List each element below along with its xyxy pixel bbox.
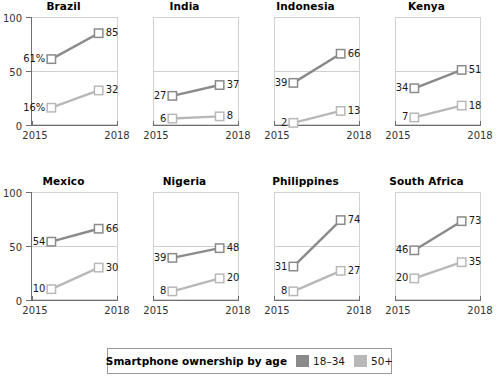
value-label-2015: 7 [368,112,408,122]
panel-title: Philippines [248,175,363,187]
series-line-50-plus [172,278,219,291]
x-axis-label-2015: 2015 [260,130,294,141]
data-point-marker [336,216,344,224]
x-axis-line [153,125,239,126]
panel-indonesia: Indonesia201520183966213 [248,0,363,165]
x-axis-label-2018: 2018 [463,305,497,316]
x-axis-label-2015: 2015 [18,305,52,316]
legend-swatch-18-34 [296,355,309,367]
x-axis-label-2015: 2015 [260,305,294,316]
data-point-marker [168,92,176,100]
data-point-marker [47,55,55,63]
panel-title: Mexico [6,175,121,187]
data-point-marker [47,237,55,245]
data-point-marker [94,86,102,94]
value-label-2015: 10 [5,284,45,294]
panel-kenya: Kenya201520183451718 [369,0,484,165]
y-axis-tick [26,300,32,301]
legend-swatch-50-plus [354,355,367,367]
value-label-2015: 16% [5,103,45,113]
data-point-marker [94,29,102,37]
series-line-18-34 [51,33,98,59]
value-label-2015: 8 [126,286,166,296]
panel-title: Kenya [369,0,484,12]
data-point-marker [289,119,297,127]
x-axis-label-2015: 2015 [381,305,415,316]
value-label-2015: 39 [247,78,287,88]
value-label-2015: 34 [368,83,408,93]
data-point-marker [336,50,344,58]
panel-india: India20152018273768 [127,0,242,165]
panel-title: Indonesia [248,0,363,12]
data-point-marker [457,66,465,74]
data-point-marker [215,244,223,252]
data-point-marker [410,274,418,282]
series-line-50-plus [51,90,98,107]
series-line-50-plus [293,111,340,123]
data-point-marker [168,114,176,122]
value-label-2018: 73 [469,216,497,226]
x-axis-label-2015: 2015 [18,130,52,141]
panel-mexico: Mexico0501002015201854661030 [6,175,121,340]
legend-title: Smartphone ownership by age [106,355,287,367]
value-label-2015: 46 [368,245,408,255]
x-axis-label-2015: 2015 [139,305,173,316]
x-axis-label-2015: 2015 [381,130,415,141]
data-point-marker [410,113,418,121]
data-point-marker [168,254,176,262]
x-axis-line [395,125,481,126]
value-label-2018: 51 [469,65,497,75]
series-line-18-34 [414,221,461,250]
value-label-2015: 27 [126,91,166,101]
panel-title: South Africa [369,175,484,187]
data-point-marker [457,101,465,109]
series-line-18-34 [293,54,340,83]
panel-row-0: Brazil0501002015201861%8516%32India20152… [0,0,490,170]
value-label-2015: 61% [5,54,45,64]
data-point-marker [47,285,55,293]
data-point-marker [410,246,418,254]
chart-legend: Smartphone ownership by age 18–34 50+ [107,348,392,374]
series-line-50-plus [414,262,461,278]
series-line-50-plus [293,271,340,292]
x-axis-line [274,300,360,301]
panel-nigeria: Nigeria201520183948820 [127,175,242,340]
legend-label-50-plus: 50+ [371,355,393,367]
panel-row-1: Mexico0501002015201854661030Nigeria20152… [0,175,490,345]
panel-south-africa: South Africa2015201846732035 [369,175,484,340]
value-label-2015: 31 [247,262,287,272]
data-point-marker [94,263,102,271]
y-axis-label: 50 [0,67,22,78]
data-point-marker [94,225,102,233]
y-axis-tick [26,125,32,126]
data-point-marker [457,258,465,266]
x-axis-line [32,300,118,301]
series-plot [153,17,239,125]
data-point-marker [215,81,223,89]
y-axis-label: 100 [0,188,22,199]
panel-brazil: Brazil0501002015201861%8516%32 [6,0,121,165]
x-axis-label-2015: 2015 [139,130,173,141]
legend-entry-18-34: 18–34 [296,355,345,367]
series-line-50-plus [414,106,461,118]
data-point-marker [457,217,465,225]
series-line-18-34 [172,248,219,258]
value-label-2015: 54 [5,237,45,247]
data-point-marker [215,274,223,282]
series-line-18-34 [51,229,98,242]
data-point-marker [289,262,297,270]
value-label-2015: 20 [368,273,408,283]
series-line-18-34 [293,220,340,266]
value-label-2015: 8 [247,286,287,296]
data-point-marker [410,84,418,92]
series-line-50-plus [51,268,98,290]
panel-title: India [127,0,242,12]
data-point-marker [168,287,176,295]
legend-label-18-34: 18–34 [313,355,345,367]
x-axis-line [32,125,118,126]
value-label-2015: 6 [126,114,166,124]
series-line-50-plus [172,116,219,118]
data-point-marker [289,79,297,87]
y-axis-label: 100 [0,13,22,24]
data-point-marker [215,112,223,120]
